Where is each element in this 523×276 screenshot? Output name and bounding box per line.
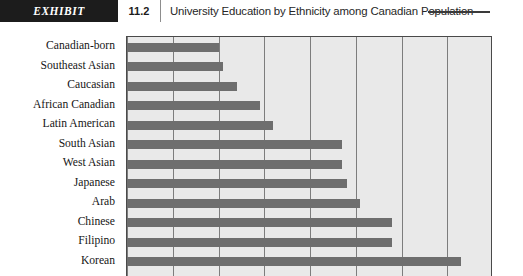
gridline-70 [447,37,448,276]
bar-chart: Canadian-bornSoutheast AsianCaucasianAfr… [0,30,523,276]
exhibit-tag-label: EXHIBIT [0,0,118,22]
y-axis-label: Caucasian [67,75,115,95]
plot-area [126,36,492,276]
y-axis-label: Filipino [78,231,115,251]
bar [127,121,273,130]
y-axis-label: Latin American [43,114,115,134]
bar [127,160,342,169]
y-axis-label: African Canadian [33,95,115,115]
y-axis-tick-labels: Canadian-bornSoutheast AsianCaucasianAfr… [0,36,120,270]
y-axis-label: West Asian [63,153,115,173]
y-axis-label: Japanese [74,173,115,193]
bar [127,62,223,71]
bar [127,179,347,188]
bar [127,43,219,52]
y-axis-label: Canadian-born [46,36,115,56]
y-axis-label: South Asian [59,134,115,154]
header-divider-rule [428,11,490,13]
bar [127,218,392,227]
exhibit-number-label: 11.2 [118,0,161,22]
bar [127,238,392,247]
bar [127,101,260,110]
y-axis-label: Southeast Asian [41,56,115,76]
bar [127,140,342,149]
y-axis-label: Arab [92,192,115,212]
y-axis-label: Chinese [78,212,115,232]
bar [127,199,360,208]
bar [127,82,237,91]
y-axis-label: Korean [81,251,115,271]
gridline-60 [402,37,403,276]
bar [127,257,461,266]
